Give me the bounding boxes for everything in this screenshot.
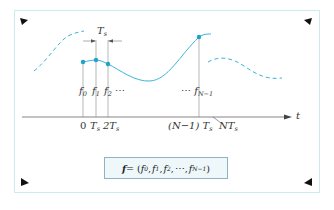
- corner-mark-bottom-left-icon: [21, 178, 29, 186]
- tick-label-nts: NTs: [219, 121, 238, 133]
- tick-label-text: (N−1) T: [168, 120, 209, 131]
- tick-label-sub: s: [116, 125, 119, 133]
- sample-ellipsis: ⋯: [181, 85, 191, 96]
- axis-arrow-icon: [284, 115, 292, 120]
- sample-dot-0: [81, 60, 85, 64]
- sample-dot-2: [106, 62, 110, 66]
- tick-label-sub: s: [97, 125, 100, 133]
- interval-label-sub: s: [104, 30, 107, 38]
- tick-label-text: T: [90, 120, 97, 131]
- tick-label-sub: s: [234, 125, 237, 133]
- tick-label-2ts: 2Ts: [103, 121, 119, 133]
- sample-label-1: f1: [92, 86, 100, 98]
- sample-label-n-minus-1: ⋯ fN−1: [181, 86, 213, 98]
- formula-ellipsis: ⋯: [175, 163, 185, 174]
- tick-label-text: NT: [219, 120, 234, 131]
- signal-dashed-right: [208, 58, 282, 78]
- formula-box: f = ( f0, f1, f2, ⋯, fN−1 ): [104, 157, 228, 179]
- signal-dashed-left: [34, 31, 84, 71]
- tick-label-text: 2T: [103, 120, 116, 131]
- tick-label-n-minus-1-ts: (N−1) Ts: [168, 121, 213, 133]
- tick-label-text: 0: [80, 120, 86, 131]
- tick-label-0: 0: [80, 121, 86, 131]
- signal-curve: [83, 34, 211, 81]
- corner-mark-bottom-right-icon: [304, 178, 312, 186]
- tick-label-sub: s: [209, 125, 212, 133]
- interval-arrowhead-right-icon: [108, 39, 113, 42]
- formula-term-sub: N−1: [192, 165, 206, 172]
- sample-label-sub: N−1: [198, 90, 213, 98]
- sample-label-2: f2 ⋯: [104, 86, 125, 98]
- interval-label: Ts: [97, 26, 107, 38]
- sample-label-sub: 0: [83, 90, 87, 98]
- axis-label-text: t: [296, 110, 300, 121]
- formula-close-paren: ): [206, 163, 210, 174]
- sample-label-sub: 1: [96, 90, 100, 98]
- sample-dot-n-minus-1: [197, 35, 201, 39]
- formula-equals: = (: [126, 163, 141, 174]
- corner-mark-top-left-icon: [20, 18, 28, 25]
- sample-label-0: f0: [79, 86, 87, 98]
- axis-label-t: t: [296, 111, 300, 121]
- sample-label-sub: 2: [108, 90, 112, 98]
- corner-mark-top-right-icon: [304, 18, 312, 25]
- tick-label-ts: Ts: [90, 121, 100, 133]
- interval-arrowhead-left-icon: [91, 39, 96, 42]
- sample-ellipsis: ⋯: [115, 85, 125, 96]
- interval-label-base: T: [97, 25, 104, 36]
- sample-dot-1: [94, 58, 98, 62]
